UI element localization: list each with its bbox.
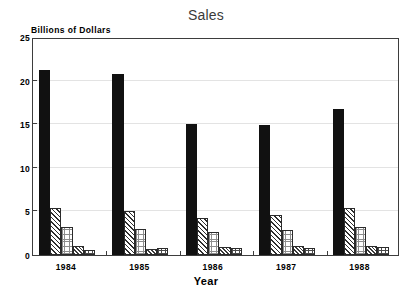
y-axis-tick-mark [33, 123, 37, 124]
y-axis-tick-labels: 0510152025 [0, 38, 30, 256]
y-axis-tick-label: 15 [6, 120, 30, 130]
y-axis-tick-label: 25 [6, 33, 30, 43]
bar-1988-series-1 [333, 109, 344, 255]
y-axis-tick-mark [33, 167, 37, 168]
bar-group-1986 [186, 39, 242, 255]
bar-1984-series-4 [73, 246, 84, 255]
bar-1986-series-2 [197, 218, 208, 255]
y-axis-tick-mark [33, 210, 37, 211]
bar-1986-series-4 [219, 247, 230, 255]
x-axis-tick-label-1986: 1986 [203, 262, 224, 272]
bar-1988-series-5 [377, 247, 388, 255]
x-axis-tick-mark [253, 251, 254, 255]
x-axis-tick-label-1984: 1984 [56, 262, 77, 272]
y-axis-label: Billions of Dollars [31, 25, 111, 35]
y-axis-tick-label: 10 [6, 164, 30, 174]
bar-group-1988 [333, 39, 389, 255]
bar-group-1987 [259, 39, 315, 255]
x-axis-tick-mark [327, 251, 328, 255]
bar-1987-series-3 [282, 230, 293, 255]
y-axis-tick-mark [33, 80, 37, 81]
bar-1987-series-1 [259, 125, 270, 255]
plot-area [32, 38, 399, 256]
bar-1984-series-1 [39, 70, 50, 255]
bar-1988-series-2 [344, 208, 355, 255]
chart-title: Sales [0, 7, 412, 23]
bar-1985-series-1 [112, 74, 123, 255]
bar-1986-series-5 [231, 248, 242, 255]
bar-1984-series-2 [50, 208, 61, 255]
x-axis-tick-label-1988: 1988 [349, 262, 370, 272]
bar-1985-series-4 [146, 249, 157, 255]
bar-1985-series-5 [157, 248, 168, 255]
bar-1988-series-3 [355, 227, 366, 255]
bar-1987-series-2 [270, 215, 281, 255]
y-axis-tick-label: 20 [6, 77, 30, 87]
bar-group-1984 [39, 39, 95, 255]
y-axis-tick-label: 5 [6, 207, 30, 217]
x-axis-tick-mark [106, 251, 107, 255]
bar-1984-series-3 [61, 227, 72, 255]
bar-1985-series-3 [135, 229, 146, 255]
x-axis-label: Year [0, 275, 412, 287]
bar-1988-series-4 [366, 246, 377, 255]
bar-1987-series-4 [293, 246, 304, 255]
bar-1984-series-5 [84, 250, 95, 255]
bar-1986-series-1 [186, 124, 197, 255]
bar-1985-series-2 [124, 211, 135, 255]
x-axis-tick-mark [180, 251, 181, 255]
bar-group-1985 [112, 39, 168, 255]
sales-bar-chart: Sales Billions of Dollars 0510152025 198… [0, 0, 412, 302]
bar-1987-series-5 [304, 248, 315, 255]
bar-1986-series-3 [208, 232, 219, 255]
y-axis-tick-label: 0 [6, 251, 30, 261]
x-axis-tick-label-1985: 1985 [129, 262, 150, 272]
x-axis-tick-label-1987: 1987 [276, 262, 297, 272]
